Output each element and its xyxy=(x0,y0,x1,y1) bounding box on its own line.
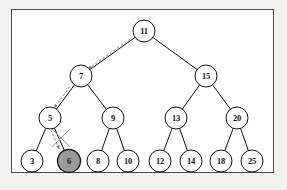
tree-edge xyxy=(153,37,197,69)
tree-edge xyxy=(213,85,231,109)
search-path-arrow xyxy=(54,87,70,108)
tree-edge xyxy=(117,128,125,150)
tree-node[interactable] xyxy=(87,150,109,172)
tree-diagram-figure: 117155913203681012141825 xyxy=(0,0,287,190)
tree-edge xyxy=(225,128,233,150)
tree-edge xyxy=(36,128,46,151)
tree-nodes xyxy=(21,20,263,173)
tree-edge xyxy=(164,128,172,150)
tree-node[interactable] xyxy=(70,65,92,87)
tree-node[interactable] xyxy=(102,107,124,129)
tree-edge xyxy=(180,128,188,150)
tree-canvas xyxy=(0,0,287,190)
tree-node[interactable] xyxy=(241,150,263,172)
tree-edge xyxy=(102,128,110,150)
tree-edge xyxy=(57,85,75,109)
tree-node-deleted[interactable] xyxy=(58,150,81,173)
tree-edge xyxy=(182,85,199,109)
tree-node[interactable] xyxy=(149,150,171,172)
search-path-arrow xyxy=(88,39,130,69)
tree-edges xyxy=(36,37,248,150)
tree-node[interactable] xyxy=(210,150,232,172)
tree-node[interactable] xyxy=(117,150,139,172)
search-path-arrow xyxy=(51,130,59,149)
tree-node[interactable] xyxy=(180,150,202,172)
edge-cut-mark xyxy=(52,129,70,147)
tree-node[interactable] xyxy=(165,107,187,129)
tree-node[interactable] xyxy=(195,65,217,87)
tree-edge xyxy=(90,37,135,69)
tree-node[interactable] xyxy=(39,107,61,129)
tree-node[interactable] xyxy=(133,20,155,42)
tree-node[interactable] xyxy=(226,107,248,129)
tree-edge xyxy=(241,128,249,150)
tree-edge xyxy=(88,85,107,110)
tree-node[interactable] xyxy=(21,150,43,172)
